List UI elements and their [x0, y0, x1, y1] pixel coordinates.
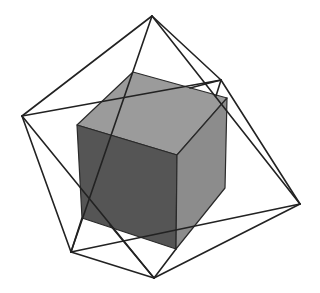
figure: [0, 0, 320, 293]
octahedron-edge: [22, 116, 71, 252]
octahedron-edge: [216, 80, 221, 96]
octahedron-edge: [71, 252, 154, 278]
octahedron-edge: [71, 218, 82, 252]
octahedron-edge: [152, 16, 221, 80]
cube-octahedron-diagram: [0, 0, 320, 293]
octahedron-edge: [221, 80, 300, 204]
cube: [77, 72, 227, 249]
octahedron-edge: [154, 249, 176, 278]
